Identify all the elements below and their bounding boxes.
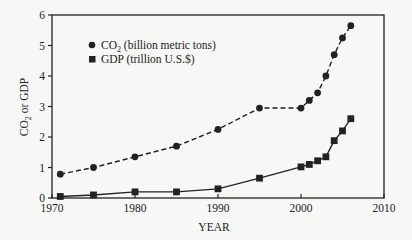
co2-point [132,153,139,160]
x-tick-label: 1980 [124,202,147,214]
gdp-point [298,163,305,170]
gdp-line [60,119,351,197]
legend-circle-icon [89,42,96,49]
gdp-point [173,189,180,196]
co2-point [173,143,180,150]
gdp-point [306,161,313,168]
x-axis-label: YEAR [198,221,230,233]
gdp-point [90,192,97,199]
y-tick-label: 3 [39,101,45,113]
co2-point [323,73,330,80]
gdp-point [215,185,222,192]
co2-point [57,171,64,178]
gdp-point [132,189,139,196]
y-tick-label: 5 [39,40,45,52]
co2-point [90,164,97,171]
y-axis-label: CO2 or GDP [18,78,33,136]
gdp-point [314,157,321,164]
gdp-point [57,193,64,200]
co2-point [306,97,313,104]
gdp-point [331,137,338,144]
legend-co2-label: CO2 (billion metric tons) [101,39,216,54]
x-tick-label: 2010 [373,202,396,214]
y-tick-label: 1 [39,162,45,174]
co2-point [347,22,354,29]
y-tick-label: 6 [39,9,45,21]
co2-point [314,89,321,96]
y-tick-label: 2 [39,131,45,143]
y-tick-label: 4 [39,70,45,82]
legend-gdp-label: GDP (trillion U.S.$) [101,53,195,66]
legend: CO2 (billion metric tons) GDP (trillion … [89,39,216,66]
gdp-point [339,128,346,135]
co2-point [256,105,263,112]
chart: 012345619701980199020002010 CO2 (billion… [0,0,412,240]
co2-point [298,105,305,112]
co2-point [339,34,346,41]
legend-square-icon [89,56,96,63]
x-tick-label: 1970 [41,202,64,214]
co2-point [215,126,222,133]
gdp-point [256,175,263,182]
x-tick-label: 2000 [290,202,313,214]
co2-point [331,51,338,58]
gdp-point [323,153,330,160]
x-tick-label: 1990 [207,202,230,214]
gdp-point [347,115,354,122]
